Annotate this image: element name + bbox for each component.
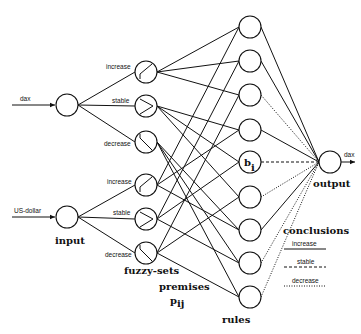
rule-bi-subscript: i: [251, 162, 255, 173]
fuzzy-node-dax-decrease: [135, 131, 157, 153]
rules-layer-label: rules: [222, 314, 251, 325]
usd-input-label: US-dollar: [14, 207, 42, 214]
fuzzy-node-usd-decrease: [135, 242, 157, 264]
fuzzy-node-usd-increase: [135, 174, 157, 196]
rule-node-7: [239, 219, 261, 241]
fuzzy-sets-layer-label: fuzzy-sets: [124, 265, 180, 276]
rule-node-3: [239, 84, 261, 106]
fuzzy-node-dax-increase: [135, 61, 157, 83]
legend-title: conclusions: [283, 225, 350, 236]
rule-node-1: [239, 16, 261, 38]
fuzzy-label: stable: [112, 97, 130, 104]
rule-node-4: [239, 119, 261, 141]
legend-label-decrease: decrease: [292, 277, 319, 284]
rule-node-8: [239, 252, 261, 274]
fuzzy-label: decrease: [105, 251, 132, 258]
premises-symbol: p: [170, 295, 177, 306]
output-layer-label: output: [313, 178, 351, 189]
fuzzy-set-nodes: [135, 61, 157, 264]
output-node: [319, 151, 341, 173]
premises-subscript: ij: [177, 298, 184, 309]
input-layer-label: input: [55, 235, 85, 246]
rule-node-9: [239, 286, 261, 308]
output-arrow-label: dax: [344, 151, 355, 158]
premise-edges: [157, 27, 239, 297]
fuzzy-neural-network-diagram: dax US-dollar increase stable decrease i…: [0, 0, 361, 334]
premises-layer-label: premises: [159, 281, 210, 292]
rule-node-6: [239, 186, 261, 208]
fuzzy-label: increase: [107, 178, 132, 185]
fuzzy-label: increase: [106, 63, 131, 70]
input-node-dax: [56, 94, 78, 116]
input-node-usd: [56, 206, 78, 228]
rule-bi-label: b: [244, 157, 251, 168]
fuzzy-label: stable: [113, 209, 131, 216]
dax-input-label: dax: [20, 95, 31, 102]
conclusion-edges: [261, 27, 319, 297]
legend-label-increase: increase: [292, 240, 317, 247]
fuzzy-label: decrease: [104, 140, 131, 147]
rule-node-2: [239, 50, 261, 72]
legend-label-stable: stable: [297, 258, 315, 265]
conclusions-legend: conclusions increase stable decrease: [283, 225, 350, 286]
